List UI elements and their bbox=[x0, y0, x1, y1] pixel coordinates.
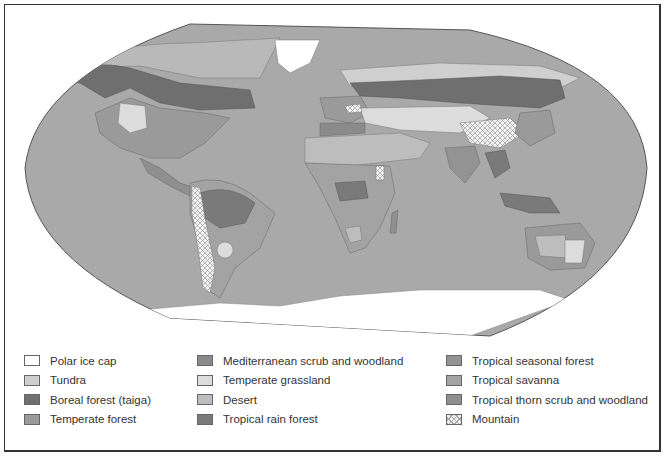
legend-label: Tropical rain forest bbox=[223, 413, 318, 425]
pampas-grassland bbox=[217, 242, 233, 258]
tropical-rain-forest-swatch-icon bbox=[197, 414, 213, 425]
legend-item-temperate-forest: Temperate forest bbox=[24, 410, 151, 430]
tropical-savanna-swatch-icon bbox=[446, 375, 462, 386]
legend-item-tropical-thorn-scrub: Tropical thorn scrub and woodland bbox=[446, 390, 648, 410]
legend-item-polar-ice-cap: Polar ice cap bbox=[24, 351, 151, 371]
legend-item-tropical-seasonal-forest: Tropical seasonal forest bbox=[446, 351, 648, 371]
legend-label: Tropical seasonal forest bbox=[472, 355, 594, 367]
desert-swatch-icon bbox=[197, 394, 213, 405]
tundra-swatch-icon bbox=[24, 375, 40, 386]
polar-ice-cap-swatch-icon bbox=[24, 355, 40, 366]
congo-rainforest bbox=[335, 181, 368, 201]
legend-item-temperate-grassland: Temperate grassland bbox=[197, 371, 403, 391]
legend-item-mediterranean: Mediterranean scrub and woodland bbox=[197, 351, 403, 371]
legend-item-tropical-savanna: Tropical savanna bbox=[446, 371, 648, 391]
tropical-seasonal-forest-swatch-icon bbox=[446, 355, 462, 366]
legend-label: Tropical thorn scrub and woodland bbox=[472, 394, 648, 406]
legend: Polar ice cap Tundra Boreal forest (taig… bbox=[0, 343, 665, 443]
legend-item-mountain: Mountain bbox=[446, 410, 648, 430]
legend-label: Desert bbox=[223, 394, 257, 406]
tropical-thorn-scrub-swatch-icon bbox=[446, 394, 462, 405]
boreal-forest-swatch-icon bbox=[24, 394, 40, 405]
legend-label: Polar ice cap bbox=[50, 355, 116, 367]
australia-grassland bbox=[565, 240, 585, 263]
legend-label: Mountain bbox=[472, 413, 519, 425]
legend-label: Tropical savanna bbox=[472, 374, 559, 386]
temperate-grassland-swatch-icon bbox=[197, 375, 213, 386]
legend-item-tropical-rain-forest: Tropical rain forest bbox=[197, 410, 403, 430]
legend-item-boreal-forest: Boreal forest (taiga) bbox=[24, 390, 151, 410]
legend-label: Temperate grassland bbox=[223, 374, 330, 386]
legend-label: Tundra bbox=[50, 374, 86, 386]
australia-desert bbox=[535, 235, 568, 258]
legend-label: Mediterranean scrub and woodland bbox=[223, 355, 403, 367]
mountain-swatch-icon bbox=[446, 414, 462, 425]
legend-column-1: Polar ice cap Tundra Boreal forest (taig… bbox=[24, 351, 151, 429]
legend-item-desert: Desert bbox=[197, 390, 403, 410]
mediterranean-swatch-icon bbox=[197, 355, 213, 366]
temperate-forest-swatch-icon bbox=[24, 414, 40, 425]
legend-column-3: Tropical seasonal forest Tropical savann… bbox=[446, 351, 648, 429]
legend-item-tundra: Tundra bbox=[24, 371, 151, 391]
legend-label: Temperate forest bbox=[50, 413, 136, 425]
ethiopia-mountain bbox=[376, 166, 384, 180]
world-biome-map bbox=[20, 18, 650, 338]
legend-column-2: Mediterranean scrub and woodland Tempera… bbox=[197, 351, 403, 429]
legend-label: Boreal forest (taiga) bbox=[50, 394, 151, 406]
